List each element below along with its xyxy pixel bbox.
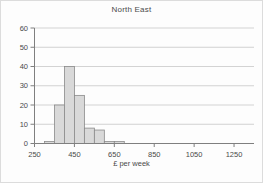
histogram-bar bbox=[84, 128, 94, 143]
histogram-bar bbox=[94, 130, 104, 143]
histogram-bar bbox=[54, 105, 64, 144]
y-tick-label: 0 bbox=[24, 139, 28, 148]
y-tick-label: 60 bbox=[20, 24, 28, 33]
y-tick-label: 40 bbox=[20, 62, 28, 71]
x-tick-label: 650 bbox=[108, 150, 121, 159]
x-axis-label: £ per week bbox=[1, 159, 262, 168]
chart-canvas: North East 01020304050602504506508501050… bbox=[0, 0, 263, 183]
x-tick-label: 1250 bbox=[226, 150, 243, 159]
x-tick-label: 850 bbox=[148, 150, 161, 159]
x-tick-label: 1050 bbox=[186, 150, 203, 159]
x-tick-label: 250 bbox=[28, 150, 41, 159]
y-tick-label: 30 bbox=[20, 81, 28, 90]
y-tick-label: 50 bbox=[20, 43, 28, 52]
x-tick-label: 450 bbox=[68, 150, 81, 159]
histogram-bar bbox=[64, 67, 74, 144]
y-tick-label: 20 bbox=[20, 101, 28, 110]
histogram-bar bbox=[74, 95, 84, 143]
histogram-svg: 010203040506025045065085010501250 bbox=[1, 1, 263, 159]
y-tick-label: 10 bbox=[20, 120, 28, 129]
